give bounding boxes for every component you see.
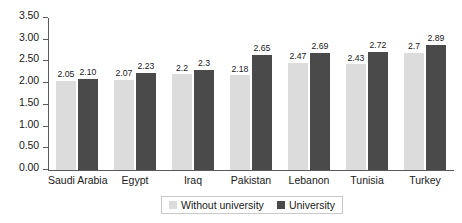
bar-value-label: 2.23	[126, 62, 166, 71]
bar	[404, 53, 424, 170]
plot-area: 2.052.102.072.232.22.32.182.652.472.692.…	[48, 18, 454, 170]
bar	[194, 70, 214, 170]
y-axis-tick-label: 1.50	[19, 97, 39, 108]
bar-group: 2.472.69	[288, 18, 330, 170]
x-axis-category-label: Iraq	[164, 175, 222, 186]
bar	[172, 74, 192, 170]
bar	[114, 80, 134, 170]
bar	[368, 52, 388, 170]
bar-value-label: 2.89	[416, 34, 456, 43]
bar-group: 2.72.89	[404, 18, 446, 170]
bar	[288, 63, 308, 170]
bar-group: 2.432.72	[346, 18, 388, 170]
bar-value-label: 2.3	[184, 59, 224, 68]
bar	[426, 45, 446, 171]
bar	[136, 73, 156, 170]
y-axis-tick-label: 0.50	[19, 140, 39, 151]
legend-swatch-icon	[277, 201, 285, 209]
bar-group: 2.052.10	[56, 18, 98, 170]
bar-group: 2.072.23	[114, 18, 156, 170]
legend-item[interactable]: University	[277, 200, 335, 211]
x-axis-category-label: Turkey	[396, 175, 454, 186]
bar	[310, 53, 330, 170]
y-axis-tick-label: 3.00	[19, 32, 39, 43]
y-axis-tick-label: 2.50	[19, 53, 39, 64]
x-axis-category-label: Egypt	[106, 175, 164, 186]
x-axis-category-label: Saudi Arabia	[48, 175, 106, 186]
bar	[230, 75, 250, 170]
bar-group: 2.182.65	[230, 18, 272, 170]
bar-value-label: 2.69	[300, 42, 340, 51]
bar	[78, 79, 98, 170]
y-axis-tick-label: 0.00	[19, 162, 39, 173]
bar	[346, 64, 366, 170]
y-axis-tick-label: 3.50	[19, 10, 39, 21]
y-axis-tick-label: 2.00	[19, 75, 39, 86]
x-axis-category-label: Lebanon	[280, 175, 338, 186]
x-axis-line	[48, 170, 454, 171]
legend-item[interactable]: Without university	[169, 200, 264, 211]
legend-swatch-icon	[169, 201, 177, 209]
bar-value-label: 2.65	[242, 44, 282, 53]
bar-value-label: 2.10	[68, 68, 108, 77]
legend-label: University	[289, 200, 335, 211]
chart-legend: Without universityUniversity	[161, 196, 343, 214]
x-axis-category-label: Pakistan	[222, 175, 280, 186]
bar	[56, 81, 76, 170]
legend-label: Without university	[181, 200, 264, 211]
y-axis-tick-label: 1.00	[19, 119, 39, 130]
bar-group: 2.22.3	[172, 18, 214, 170]
bar	[252, 55, 272, 170]
bar-value-label: 2.72	[358, 41, 398, 50]
x-axis-category-label: Tunisia	[338, 175, 396, 186]
grouped-bar-chart: 0.000.501.001.502.002.503.003.50 2.052.1…	[0, 0, 462, 223]
